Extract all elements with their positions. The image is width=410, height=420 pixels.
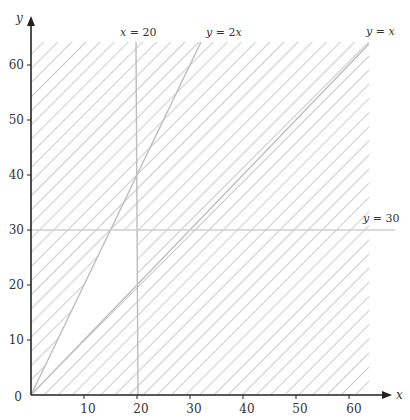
x-tick-40: 40 bbox=[239, 402, 254, 416]
x-axis-label: x bbox=[396, 388, 403, 402]
label-y-equals-2x: y = 2x bbox=[205, 26, 242, 39]
x-axis-arrow-icon bbox=[382, 391, 392, 399]
y-axis-label: y bbox=[15, 11, 23, 25]
y-tick-10: 10 bbox=[9, 333, 24, 347]
x-tick-60: 60 bbox=[346, 402, 361, 416]
x-tick-20: 20 bbox=[133, 402, 148, 416]
x-tick-10: 10 bbox=[80, 402, 95, 416]
feasible-region-diagram: 0 10 20 30 40 50 60 10 20 30 40 50 60 y … bbox=[0, 0, 410, 420]
label-x-equals-20: x = 20 bbox=[120, 26, 156, 39]
y-axis-arrow-icon bbox=[27, 16, 35, 26]
y-tick-40: 40 bbox=[9, 168, 24, 182]
y-tick-60: 60 bbox=[9, 58, 24, 72]
x-tick-50: 50 bbox=[292, 402, 307, 416]
label-y-equals-30: y = 30 bbox=[362, 212, 399, 225]
y-tick-20: 20 bbox=[9, 278, 24, 292]
y-tick-50: 50 bbox=[9, 113, 24, 127]
label-y-equals-x: y = x bbox=[365, 25, 395, 38]
x-tick-30: 30 bbox=[186, 402, 201, 416]
y-tick-0: 0 bbox=[14, 390, 22, 404]
y-tick-30: 30 bbox=[9, 223, 24, 237]
